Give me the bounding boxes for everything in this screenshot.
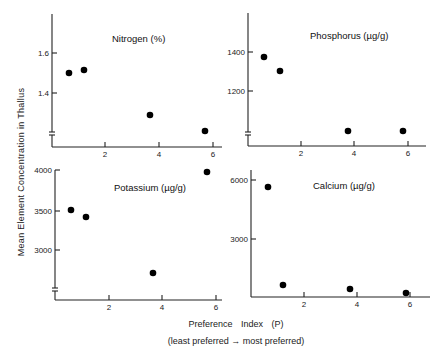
x-tick-label: 6 [408, 300, 413, 309]
x-tick-label: 2 [103, 150, 108, 159]
data-point [66, 70, 73, 77]
x-tick-label: 2 [299, 149, 304, 158]
data-point [400, 128, 407, 135]
data-point [147, 112, 154, 119]
data-point [261, 54, 268, 61]
data-point [345, 128, 352, 135]
y-tick-label: 3000 [230, 235, 248, 244]
y-tick-label: 4000 [34, 166, 52, 175]
data-point [150, 270, 157, 277]
y-tick-label: 1.6 [38, 49, 50, 58]
y-tick-label: 1400 [227, 48, 245, 57]
data-point [81, 67, 88, 74]
x-tick-label: 6 [211, 150, 216, 159]
panel-title: Phosphorus (µg/g) [310, 30, 388, 41]
x-axis-title: Preference Index (P) [188, 319, 283, 329]
x-tick-label: 4 [352, 149, 357, 158]
data-point [202, 128, 209, 135]
panel-title: Calcium (µg/g) [313, 180, 375, 191]
figure-canvas: 2 4 6 1.6 1.4 Nitrogen (%) 2 4 6 1400 12… [0, 0, 443, 353]
y-tick-label: 6000 [230, 176, 248, 185]
y-tick-label: 1.4 [38, 89, 50, 98]
panel-phosphorus: 2 4 6 1400 1200 Phosphorus (µg/g) [227, 13, 426, 158]
y-axis-title: Mean Element Concentration in Thallus [16, 88, 26, 257]
data-point [347, 286, 354, 293]
data-point [265, 184, 272, 191]
x-tick-label: 4 [160, 303, 165, 312]
panel-nitrogen: 2 4 6 1.6 1.4 Nitrogen (%) [38, 14, 222, 159]
x-axis-subtitle: (least preferred → most preferred) [168, 336, 305, 346]
x-tick-label: 2 [302, 300, 307, 309]
panel-title: Potassium (µg/g) [114, 182, 186, 193]
data-point [83, 214, 90, 221]
y-tick-label: 3000 [34, 246, 52, 255]
panel-title: Nitrogen (%) [112, 33, 165, 44]
data-point [280, 282, 287, 289]
x-tick-label: 6 [214, 303, 219, 312]
data-point [68, 207, 75, 214]
x-tick-label: 2 [107, 303, 112, 312]
x-tick-label: 4 [157, 150, 162, 159]
data-point [277, 68, 284, 75]
x-tick-label: 6 [406, 149, 411, 158]
y-tick-label: 3500 [34, 207, 52, 216]
panel-potassium: 2 4 6 4000 3500 3000 Potassium (µg/g) [34, 166, 222, 312]
panel-calcium: 2 4 6 6000 3000 Calcium (µg/g) [230, 170, 430, 309]
data-point [403, 290, 410, 297]
y-tick-label: 1200 [227, 87, 245, 96]
x-tick-label: 4 [355, 300, 360, 309]
data-point [204, 169, 211, 176]
